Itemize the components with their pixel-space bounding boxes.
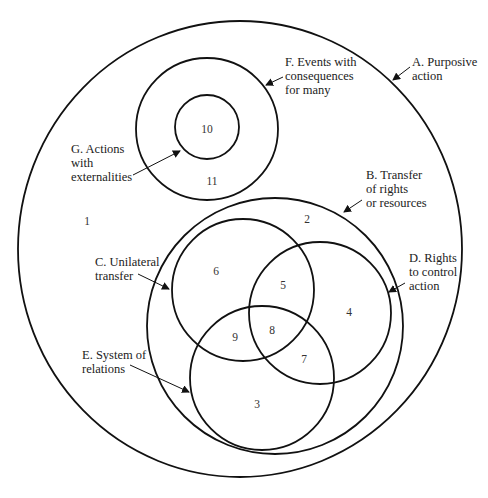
label-e: E. System ofrelations: [82, 348, 147, 376]
circle-c-unilateral-transfer: [172, 219, 314, 361]
circle-d-rights-to-control: [249, 242, 391, 384]
label-a: A. Purposiveaction: [412, 55, 478, 83]
label-b: B. Transferof rightsor resources: [366, 168, 427, 210]
region-10: 10: [201, 123, 213, 135]
arrow-b: [344, 200, 362, 212]
region-6: 6: [213, 265, 219, 277]
arrow-e: [130, 365, 189, 392]
region-3: 3: [254, 398, 260, 410]
label-g: G. Actionswithexternalities: [71, 142, 132, 184]
region-7: 7: [301, 353, 307, 365]
label-c: C. Unilateraltransfer: [95, 255, 160, 283]
region-8: 8: [269, 324, 275, 336]
circle-e-system-of-relations: [190, 306, 334, 450]
circle-a-purposive-action: [18, 21, 462, 477]
region-4: 4: [346, 306, 352, 318]
arrow-a: [393, 67, 410, 80]
label-f: F. Events withconsequencesfor many: [285, 55, 357, 97]
region-11: 11: [206, 175, 217, 187]
arrow-d: [389, 283, 405, 292]
region-5: 5: [280, 279, 286, 291]
venn-diagram: A. Purposiveaction F. Events withconsequ…: [0, 0, 488, 498]
region-9: 9: [232, 331, 238, 343]
arrow-f: [266, 77, 283, 85]
label-d: D. Rightsto controlaction: [409, 251, 458, 293]
circle-b-transfer-of-rights: [147, 198, 403, 454]
region-1: 1: [84, 215, 90, 227]
region-2: 2: [304, 213, 310, 225]
